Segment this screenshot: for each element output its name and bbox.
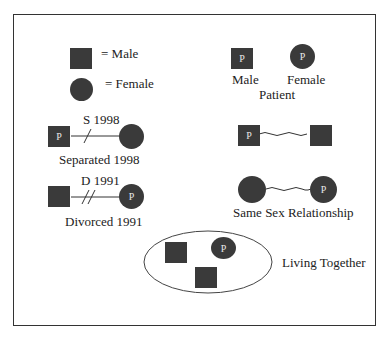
female-symbol-icon (70, 78, 93, 101)
living-female-patient-icon: P (211, 237, 236, 259)
patient-male-label: Male (232, 72, 259, 88)
living-male-icon (165, 242, 187, 263)
patient-female-icon: P (290, 44, 315, 69)
divorced-male-icon (48, 186, 70, 207)
divorced-caption: Divorced 1991 (65, 214, 143, 230)
legend-male-label: = Male (101, 46, 138, 62)
connector-lines (0, 0, 386, 338)
legend-female-label: = Female (105, 76, 154, 92)
same-sex-male-patient-icon: P (238, 125, 260, 146)
patient-caption: Patient (259, 87, 295, 103)
same-sex-male-icon (310, 125, 332, 146)
separated-male-patient-icon: P (48, 126, 70, 147)
divorced-female-patient-icon: P (119, 184, 144, 209)
male-symbol-icon (70, 48, 92, 69)
same-sex-female-icon (238, 176, 266, 203)
living-male-icon-2 (195, 267, 217, 288)
same-sex-caption: Same Sex Relationship (233, 205, 354, 221)
same-sex-female-patient-icon: P (310, 176, 337, 203)
patient-female-label: Female (287, 72, 325, 88)
divorced-date-label: D 1991 (81, 173, 120, 189)
separated-caption: Separated 1998 (59, 152, 140, 168)
patient-male-icon: P (231, 48, 253, 69)
separated-date-label: S 1998 (83, 112, 119, 128)
living-together-caption: Living Together (282, 255, 366, 271)
separated-female-icon (119, 124, 144, 149)
